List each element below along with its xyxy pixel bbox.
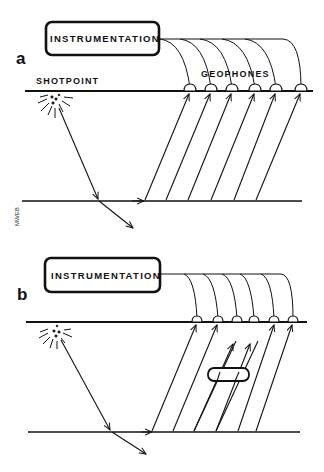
transmitted-ray-b	[112, 432, 146, 454]
instrumentation-label-a: INSTRUMENTATION	[50, 33, 160, 44]
geophones-label: GEOPHONES	[201, 69, 270, 79]
panel-letter-a: a	[16, 49, 25, 69]
transmitted-ray-a	[99, 201, 133, 228]
seismic-diagram	[0, 0, 324, 472]
geophone-cables-b	[160, 274, 293, 318]
shot-burst-b	[39, 325, 72, 349]
panel-b	[26, 258, 307, 454]
geophone-cables-a	[159, 39, 301, 88]
panel-letter-b: b	[17, 285, 27, 305]
shotpoint-label: SHOTPOINT	[36, 76, 99, 86]
instrumentation-label-b: INSTRUMENTATION	[51, 270, 161, 281]
artist-signature: MWEB	[14, 207, 20, 226]
anomaly-body	[208, 368, 249, 381]
reflected-rays-a	[145, 94, 300, 200]
panel-a	[22, 22, 313, 228]
incident-ray-b	[61, 340, 110, 430]
incident-ray-a	[59, 108, 98, 199]
shot-burst-a	[38, 94, 73, 118]
